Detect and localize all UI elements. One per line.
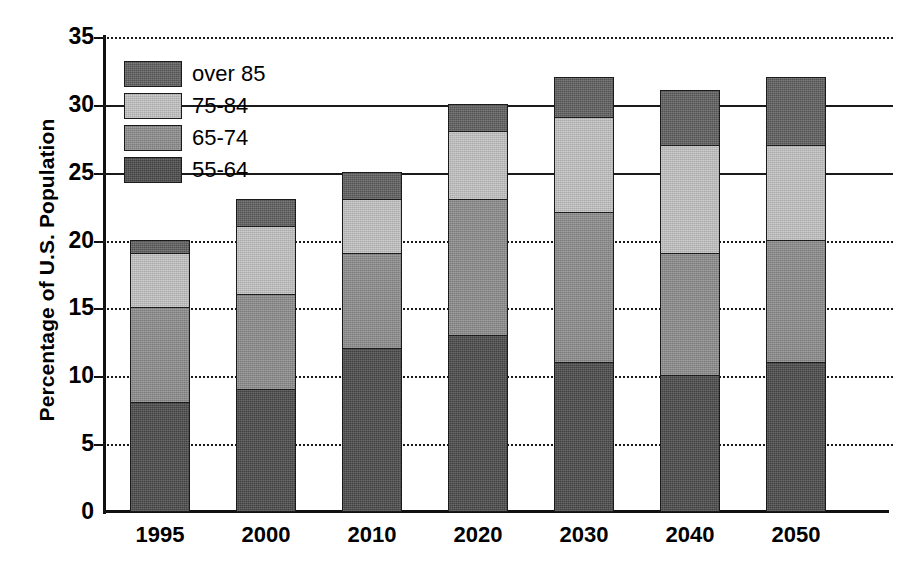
bar-segment[interactable] — [554, 117, 614, 213]
x-axis-tick-label: 2000 — [216, 524, 316, 546]
chart-legend: over 8575-8465-7455-64 — [124, 59, 354, 187]
x-axis-tick-label: 2030 — [534, 524, 634, 546]
bar-segment[interactable] — [766, 240, 826, 363]
bar-segment[interactable] — [448, 104, 508, 132]
legend-label: 55-64 — [192, 158, 248, 182]
legend-label: over 85 — [192, 62, 265, 86]
bar-1995[interactable] — [130, 241, 190, 512]
legend-swatch — [124, 61, 182, 87]
bar-segment[interactable] — [130, 402, 190, 512]
bar-segment[interactable] — [766, 362, 826, 512]
bar-segment[interactable] — [554, 362, 614, 512]
y-axis-tick-label: 35 — [48, 25, 94, 48]
y-axis-tick-mark — [94, 37, 103, 39]
x-axis-tick-labels: 1995200020102020203020402050 — [103, 524, 893, 558]
y-axis-tick-label: 0 — [48, 500, 94, 523]
bar-segment[interactable] — [236, 226, 296, 295]
bar-2030[interactable] — [554, 78, 614, 512]
bar-segment[interactable] — [554, 77, 614, 119]
bar-2040[interactable] — [660, 91, 720, 512]
bar-segment[interactable] — [236, 294, 296, 390]
legend-label: 65-74 — [192, 126, 248, 150]
y-axis-tick-label: 15 — [48, 296, 94, 319]
bar-segment[interactable] — [766, 77, 826, 146]
bar-segment[interactable] — [342, 199, 402, 254]
bar-2010[interactable] — [342, 173, 402, 512]
legend-swatch — [124, 93, 182, 119]
bar-segment[interactable] — [130, 307, 190, 403]
bar-segment[interactable] — [448, 335, 508, 512]
bar-segment[interactable] — [766, 145, 826, 241]
bar-segment[interactable] — [342, 253, 402, 349]
y-axis-tick-label: 25 — [48, 161, 94, 184]
bar-segment[interactable] — [236, 199, 296, 227]
x-axis-tick-label: 2050 — [746, 524, 846, 546]
x-axis-tick-label: 1995 — [110, 524, 210, 546]
x-axis-tick-label: 2010 — [322, 524, 422, 546]
bar-segment[interactable] — [660, 90, 720, 145]
y-axis-tick-mark — [94, 105, 103, 107]
bar-segment[interactable] — [236, 389, 296, 512]
bar-segment[interactable] — [660, 375, 720, 512]
bar-segment[interactable] — [130, 240, 190, 255]
x-axis-tick-label: 2040 — [640, 524, 740, 546]
legend-item[interactable]: 65-74 — [124, 123, 354, 154]
y-axis-tick-mark — [94, 376, 103, 378]
bar-2000[interactable] — [236, 200, 296, 512]
bar-segment[interactable] — [448, 199, 508, 336]
legend-swatch — [124, 157, 182, 183]
y-axis-tick-labels: 05101520253035 — [42, 0, 94, 569]
y-axis-tick-label: 5 — [48, 432, 94, 455]
bar-segment[interactable] — [554, 212, 614, 362]
legend-label: 75-84 — [192, 94, 248, 118]
y-axis-tick-label: 30 — [48, 93, 94, 116]
bar-segment[interactable] — [448, 131, 508, 200]
y-axis-tick-mark — [94, 444, 103, 446]
legend-item[interactable]: 55-64 — [124, 155, 354, 186]
legend-item[interactable]: over 85 — [124, 59, 354, 90]
y-axis-tick-label: 10 — [48, 364, 94, 387]
bar-segment[interactable] — [660, 253, 720, 376]
legend-item[interactable]: 75-84 — [124, 91, 354, 122]
bar-segment[interactable] — [342, 348, 402, 512]
y-axis-tick-mark — [94, 308, 103, 310]
legend-swatch — [124, 125, 182, 151]
y-axis-tick-mark — [94, 173, 103, 175]
bar-segment[interactable] — [130, 253, 190, 308]
bar-2020[interactable] — [448, 105, 508, 512]
bar-segment[interactable] — [660, 145, 720, 255]
stacked-bar-chart: Percentage of U.S. Population 0510152025… — [0, 0, 901, 569]
y-axis-tick-label: 20 — [48, 229, 94, 252]
gridline — [103, 37, 893, 39]
y-axis-tick-mark — [94, 241, 103, 243]
bar-2050[interactable] — [766, 78, 826, 512]
x-axis-tick-label: 2020 — [428, 524, 528, 546]
